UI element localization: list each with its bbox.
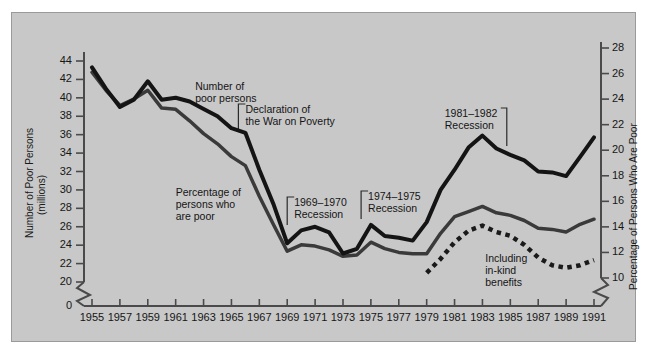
annotation-bracket-4 [361,191,368,219]
x-tick-1963: 1963 [189,311,219,323]
left-tick-36: 36 [50,128,72,140]
x-tick-1969: 1969 [272,311,302,323]
annotation-4: 1974–1975 Recession [368,190,421,214]
chart-plot-svg [0,0,647,353]
x-tick-1975: 1975 [356,311,386,323]
x-tick-1959: 1959 [133,311,163,323]
series-group [92,67,594,273]
annotation-bracket-5 [501,108,507,146]
left-tick-26: 26 [50,220,72,232]
left-axis-title-line2: (millions) [36,175,47,215]
annotation-2: Percentage of persons who are poor [176,186,241,222]
left-tick-0: 0 [50,299,72,311]
x-tick-1985: 1985 [495,311,525,323]
chart-figure: 202224262830323436384042440 101214161820… [0,0,647,353]
x-tick-1979: 1979 [412,311,442,323]
right-axis-title: Percentage of Persons Who Are Poor [628,123,639,290]
annotation-6: Including in-kind benefits [485,252,527,288]
x-tick-1987: 1987 [523,311,553,323]
left-axis-title-line1: Number of Poor Persons [24,128,35,238]
left-tick-20: 20 [50,275,72,287]
right-axis [594,42,609,306]
series-number-poor [92,67,594,253]
x-tick-1971: 1971 [300,311,330,323]
left-tick-30: 30 [50,183,72,195]
left-axis [76,52,90,306]
left-tick-40: 40 [50,91,72,103]
x-tick-1955: 1955 [77,311,107,323]
annotation-1: Declaration of the War on Poverty [245,103,334,127]
annotation-bracket-3 [287,197,294,225]
x-tick-1977: 1977 [384,311,414,323]
left-tick-32: 32 [50,165,72,177]
x-tick-1961: 1961 [161,311,191,323]
left-tick-24: 24 [50,238,72,250]
x-tick-1973: 1973 [328,311,358,323]
left-tick-44: 44 [50,54,72,66]
x-tick-1957: 1957 [105,311,135,323]
right-tick-24: 24 [612,92,634,104]
right-tick-28: 28 [612,41,634,53]
annotation-0: Number of poor persons [195,80,256,104]
annotation-3: 1969–1970 Recession [294,196,347,220]
bottom-axis [84,299,601,306]
right-tick-26: 26 [612,67,634,79]
left-tick-28: 28 [50,201,72,213]
x-tick-1965: 1965 [216,311,246,323]
left-tick-22: 22 [50,257,72,269]
x-tick-1967: 1967 [244,311,274,323]
x-tick-1989: 1989 [551,311,581,323]
x-tick-1981: 1981 [440,311,470,323]
left-tick-34: 34 [50,146,72,158]
x-tick-1991: 1991 [579,311,609,323]
left-tick-38: 38 [50,109,72,121]
x-tick-1983: 1983 [467,311,497,323]
annotation-bracket-1 [238,104,245,132]
left-tick-42: 42 [50,72,72,84]
annotation-5: 1981–1982 Recession [445,107,498,131]
